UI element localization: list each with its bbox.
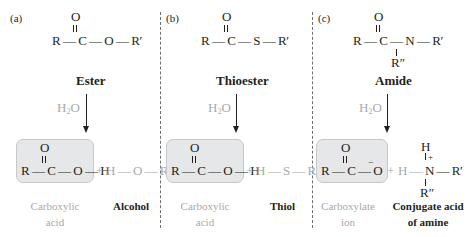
reaction-arrow [387,94,388,127]
reaction-arrow [236,94,237,127]
arrow-head-icon [233,126,239,133]
panel-divider-1 [160,12,161,228]
carbonyl-oxygen: O [374,10,383,24]
alcohol-formula: H — O — R′ [106,164,170,178]
conjugate-acid-formula: H — N — R′ [398,164,462,178]
double-bond [224,25,228,32]
panel-label: (a) [10,12,22,24]
product2-name: Alcohol [113,200,149,213]
water-reagent: H2O [57,101,80,119]
product2-name: Thiol [270,200,295,213]
product1-name: Carboxylic acid [22,200,88,229]
double-bond [42,156,46,163]
double-bond [73,25,77,32]
carbonyl-oxygen: O [190,141,199,155]
panel-label: (c) [318,12,330,24]
double-bond [376,25,380,32]
panel-divider-2 [312,12,313,228]
double-bond [192,156,196,163]
plus-sign: + [96,164,103,178]
reactant-name: Thioester [216,74,269,88]
carbonyl-oxygen: O [40,141,49,155]
reaction-arrow [86,94,87,127]
positive-charge: + [428,152,433,162]
reactant-name: Ester [76,74,106,88]
water-reagent: H2O [208,101,231,119]
arrow-head-icon [384,126,390,133]
reactant-name: Amide [375,74,412,88]
carbonyl-oxygen: O [71,10,80,24]
ester-formula: R — C — O — R′ [52,34,142,48]
amide-formula: R — C — N — R′ [353,34,443,48]
panel-label: (b) [166,12,179,24]
product1-name: Carboxylic acid [172,200,238,229]
arrow-head-icon [83,126,89,133]
negative-charge: − [368,157,373,167]
product1-name: Carboxylate ion [313,200,383,229]
thioester-formula: R — C — S — R′ [201,34,289,48]
plus-sign: + [387,164,394,178]
n-substituent: R″ [420,186,434,200]
water-reagent: H2O [359,101,382,119]
plus-sign: + [246,164,253,178]
carbonyl-oxygen: O [222,10,231,24]
n-substituent: R″ [391,56,405,70]
thiol-formula: H — S — R′ [256,164,318,178]
carbonyl-oxygen: O [341,141,350,155]
n-h-bond [425,153,426,160]
product2-name: Conjugate acid of amine [388,200,468,229]
double-bond [343,156,347,163]
